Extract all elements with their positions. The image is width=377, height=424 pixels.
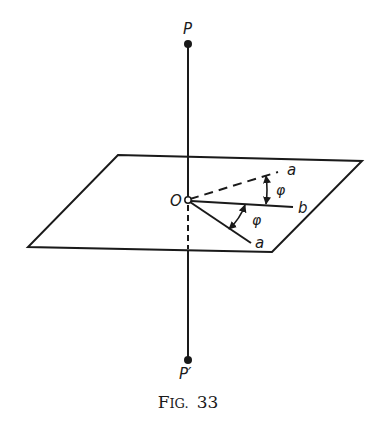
angle-arrow-upper [266, 176, 267, 204]
figure-caption: FIG.33 [158, 392, 219, 412]
point-p-dot [184, 40, 192, 48]
label-p: P [183, 20, 193, 38]
ray-a-upper-dashed [190, 172, 278, 199]
caption-number: 33 [197, 392, 219, 412]
ray-b [191, 201, 293, 207]
figure-33-diagram: P P′ O a b a φ φ FIG.33 [0, 0, 377, 424]
point-p-prime-dot [184, 356, 192, 364]
label-origin: O [170, 192, 182, 210]
plane [28, 155, 362, 252]
label-ray-a-upper: a [287, 161, 296, 179]
ray-a-lower [190, 202, 251, 243]
caption-initial: F [158, 392, 170, 412]
label-ray-b: b [298, 199, 308, 217]
label-angle-lower: φ [252, 212, 262, 228]
origin-point [185, 197, 191, 203]
label-p-prime: P′ [179, 365, 192, 383]
label-angle-upper: φ [276, 182, 286, 198]
label-ray-a-lower: a [255, 234, 264, 252]
caption-smallcaps: IG. [169, 396, 188, 411]
angle-arrow-lower [229, 205, 245, 229]
